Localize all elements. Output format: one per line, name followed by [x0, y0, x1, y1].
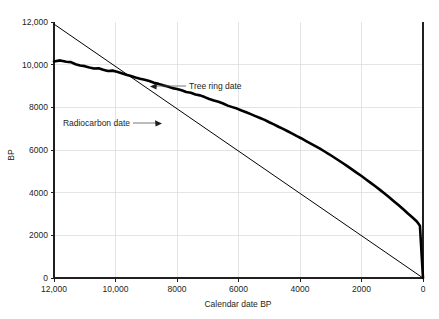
x-tick-label: 12,000 [41, 284, 67, 294]
y-tick-label: 6000 [29, 145, 48, 155]
calibration-curve-chart: 12,00010,00080006000400020000 0200040006… [0, 0, 439, 319]
y-axis-title: BP [6, 149, 16, 161]
tree-ring-date-label: Tree ring date [189, 81, 242, 91]
x-tick-label: 6000 [229, 284, 248, 294]
y-tick-label: 4000 [29, 188, 48, 198]
x-tick-label: 4000 [291, 284, 310, 294]
x-tick-label: 0 [421, 284, 426, 294]
x-tick-label: 8000 [168, 284, 187, 294]
y-tick-labels: 0200040006000800010,00012,000 [22, 17, 48, 283]
x-tick-label: 2000 [352, 284, 371, 294]
y-tick-label: 8000 [29, 102, 48, 112]
y-tick-label: 2000 [29, 230, 48, 240]
y-tick-label: 10,000 [22, 60, 48, 70]
x-tick-label: 10,000 [103, 284, 129, 294]
chart-figure: 12,00010,00080006000400020000 0200040006… [0, 0, 439, 319]
y-tick-label: 0 [43, 273, 48, 283]
x-axis-title: Calendar date BP [204, 299, 271, 309]
radiocarbon-date-label: Radiocarbon date [63, 118, 130, 128]
x-tick-labels: 12,00010,00080006000400020000 [41, 284, 426, 294]
y-tick-label: 12,000 [22, 17, 48, 27]
